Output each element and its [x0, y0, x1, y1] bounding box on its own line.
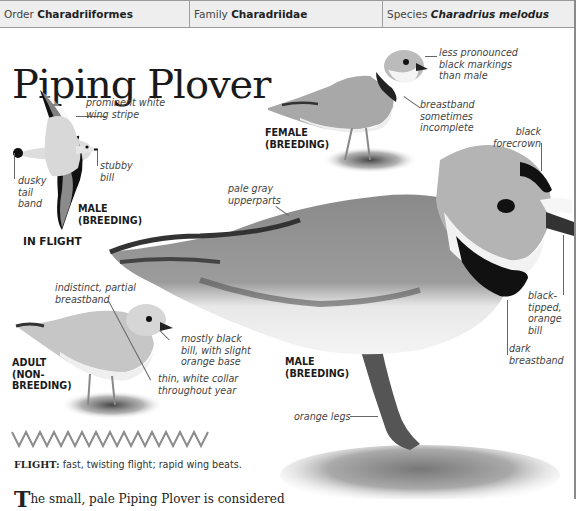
annotation-male-bill: black- tipped, orange bill: [528, 290, 562, 336]
in-flight-sex-label: MALE (BREEDING): [78, 203, 142, 226]
annotation-tail-band: dusky tail band: [18, 175, 46, 210]
annotation-stubby-bill: stubby bill: [100, 160, 133, 183]
annotation-partial-breastband: indistinct, partial breastband: [55, 282, 136, 305]
annotation-female-markings: less pronounced black markings than male: [439, 47, 518, 82]
nonbreeding-label: ADULT (NON- BREEDING): [12, 357, 72, 392]
body-text: he small, pale Piping Plover is consider…: [30, 492, 284, 506]
leader-line: [425, 56, 437, 57]
leader-line: [350, 416, 378, 417]
leader-line: [14, 153, 15, 179]
annotation-wing-stripe: prominent white wing stripe: [86, 97, 165, 120]
flight-description: FLIGHT: fast, twisting flight; rapid win…: [14, 459, 242, 470]
leader-line: [563, 235, 564, 295]
flight-pattern-zigzag: [12, 432, 208, 446]
annotation-dark-breastband: dark breastband: [509, 343, 564, 366]
body-paragraph: The small, pale Piping Plover is conside…: [14, 486, 285, 511]
drop-cap: T: [14, 486, 30, 511]
annotation-nonbreeding-bill: mostly black bill, with slight orange ba…: [181, 333, 251, 368]
annotation-female-breastband: breastband sometimes incomplete: [420, 99, 475, 134]
male-bird-illustration: [110, 145, 574, 499]
male-label: MALE (BREEDING): [285, 356, 349, 379]
flight-label: FLIGHT:: [14, 459, 60, 470]
flight-text: fast, twisting flight; rapid wing beats.: [63, 459, 242, 470]
female-label: FEMALE (BREEDING): [265, 127, 329, 150]
leader-line: [507, 300, 508, 355]
annotation-white-collar: thin, white collar throughout year: [158, 373, 238, 396]
annotation-pale-gray-upperparts: pale gray upperparts: [228, 183, 281, 206]
annotation-black-forecrown: black forecrown: [493, 126, 541, 149]
annotation-orange-legs: orange legs: [294, 411, 350, 423]
leader-line: [97, 150, 98, 166]
in-flight-heading: IN FLIGHT: [23, 236, 82, 248]
female-bird-illustration: [268, 50, 428, 173]
leader-line: [541, 143, 542, 171]
field-guide-page: Order Charadriiformes Family Charadriida…: [0, 0, 576, 499]
